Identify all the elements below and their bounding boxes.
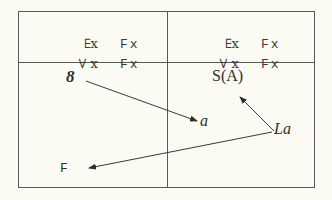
variable: x [91, 56, 98, 71]
struck-s-symbol: 8 [66, 68, 75, 85]
constant-a-label: a [200, 113, 208, 129]
predicate: Fx [120, 58, 140, 71]
diagram-canvas: ∃xFx ∀xFx ∃xFx ∀xFx 8 F S(A) a La [0, 0, 332, 200]
relation-la-label: La [274, 121, 291, 137]
predicate: Fx [261, 58, 281, 71]
forall-icon: ∀ [79, 57, 91, 70]
term-s-of-a-label: S(A) [212, 68, 243, 84]
vertical-divider [167, 11, 168, 188]
predicate-f-label: F [60, 162, 68, 175]
